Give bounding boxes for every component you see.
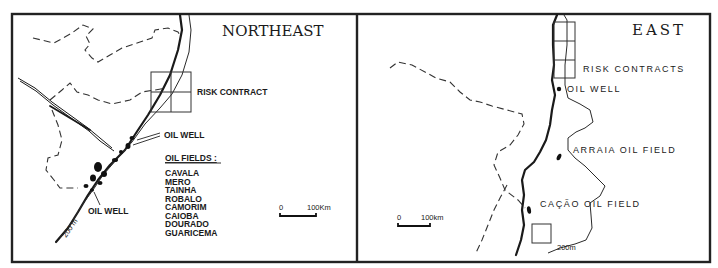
scale-end-label: 100km bbox=[421, 213, 444, 222]
oil-field-marker bbox=[126, 143, 131, 149]
isobath-label-northeast: 200 m bbox=[60, 217, 79, 239]
state-boundary-east bbox=[390, 62, 525, 208]
risk-contracts-label: RISK CONTRACTS bbox=[583, 64, 685, 74]
leader-line bbox=[137, 133, 160, 140]
state-boundary-middle bbox=[50, 83, 166, 104]
scale-end-label: 100Km bbox=[307, 203, 331, 212]
oil-well-label-upper: OIL WELL bbox=[164, 130, 204, 140]
east-title: EAST bbox=[632, 21, 686, 39]
oil-fields-heading: OIL FIELDS : bbox=[165, 153, 217, 163]
isobath-200m-east bbox=[548, 15, 605, 253]
state-boundary-north bbox=[33, 25, 181, 62]
river-line bbox=[50, 106, 90, 130]
oil-field-marker bbox=[94, 162, 102, 172]
oil-field-marker bbox=[90, 188, 94, 192]
block-square bbox=[532, 224, 551, 243]
oil-field-marker bbox=[84, 184, 89, 188]
risk-contract-label: RISK CONTRACT bbox=[197, 87, 268, 97]
oil-field-item: GUARICEMA bbox=[165, 228, 217, 238]
arraia-oil-field-marker bbox=[556, 153, 563, 161]
risk-contract-grid bbox=[151, 72, 191, 112]
northeast-title: NORTHEAST bbox=[222, 22, 324, 40]
oil-well-marker bbox=[130, 136, 135, 140]
cacao-label: CAÇÃO OIL FIELD bbox=[540, 199, 641, 209]
oil-field-marker bbox=[98, 181, 103, 185]
oil-field-marker bbox=[101, 171, 107, 177]
oil-well-label-lower: OIL WELL bbox=[88, 206, 128, 216]
coastline-east bbox=[516, 15, 557, 255]
scale-bar-northeast: 0 100Km bbox=[279, 203, 331, 216]
arraia-label: ARRAIA OIL FIELD bbox=[573, 145, 676, 155]
oil-well-label: OIL WELL bbox=[567, 84, 621, 94]
isobath-label-east: 200m bbox=[557, 243, 576, 252]
scale-bar-line bbox=[280, 213, 316, 216]
map-figure: NORTHEAST RISK CONTRACT bbox=[0, 0, 718, 268]
east-panel: EAST RISK CONTRACTS OIL WELL ARRAIA OIL … bbox=[390, 15, 686, 255]
northeast-panel: NORTHEAST RISK CONTRACT bbox=[18, 15, 331, 242]
scale-start-label: 0 bbox=[279, 203, 283, 212]
oil-well-marker bbox=[557, 87, 561, 91]
oil-fields-list: CAVALA MERO TAINHA ROBALO CAMORIM CAIOBA… bbox=[165, 168, 217, 238]
cacao-oil-field-marker bbox=[526, 206, 531, 214]
oil-field-marker bbox=[90, 175, 96, 182]
scale-bar-east: 0 100km bbox=[397, 213, 444, 226]
scale-bar-line bbox=[398, 223, 430, 226]
oil-field-marker bbox=[112, 158, 118, 162]
state-boundary-east-south bbox=[475, 185, 507, 255]
state-boundary-south bbox=[46, 110, 78, 188]
leader-line bbox=[94, 192, 100, 205]
oil-fields-cluster bbox=[84, 136, 135, 192]
oil-field-marker bbox=[119, 150, 123, 154]
scale-start-label: 0 bbox=[397, 213, 401, 222]
